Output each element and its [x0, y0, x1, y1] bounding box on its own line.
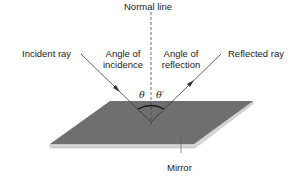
incident-ray-label: Incident ray: [22, 48, 71, 59]
angle-of-incidence-label: Angle of incidence: [101, 48, 145, 70]
angle-of-reflection-line2: reflection: [158, 59, 204, 70]
angle-of-incidence-line1: Angle of: [101, 48, 145, 59]
theta-prime-label: θ′: [156, 89, 164, 100]
mirror-surface: [50, 101, 253, 144]
normal-line-label: Normal line: [124, 1, 172, 12]
reflection-diagram: [0, 0, 300, 182]
mirror-label: Mirror: [167, 162, 192, 173]
theta-label: θ: [139, 89, 145, 100]
angle-of-incidence-line2: incidence: [101, 59, 145, 70]
angle-of-reflection-line1: Angle of: [158, 48, 204, 59]
angle-of-reflection-label: Angle of reflection: [158, 48, 204, 70]
reflected-ray-label: Reflected ray: [228, 48, 284, 59]
